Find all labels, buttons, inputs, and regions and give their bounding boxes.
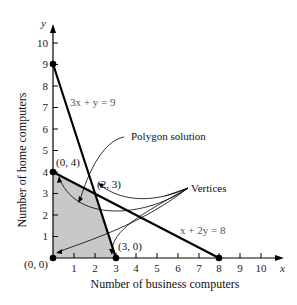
label-p04: (0, 4) xyxy=(56,156,80,169)
svg-text:3: 3 xyxy=(43,187,49,199)
svg-text:7: 7 xyxy=(43,101,49,113)
svg-text:3: 3 xyxy=(113,262,119,274)
x-var-label: x xyxy=(279,262,285,274)
x-axis-arrow xyxy=(275,255,284,261)
svg-text:2: 2 xyxy=(43,209,49,221)
svg-text:4: 4 xyxy=(43,166,49,178)
svg-text:6: 6 xyxy=(43,123,49,135)
svg-text:1: 1 xyxy=(71,262,77,274)
label-p30: (3, 0) xyxy=(118,240,142,253)
label-polygon-solution: Polygon solution xyxy=(131,130,206,142)
svg-text:9: 9 xyxy=(237,262,243,274)
svg-text:10: 10 xyxy=(37,37,49,49)
label-p23: (2, 3) xyxy=(97,178,121,191)
y-axis-label: Number of home computers xyxy=(15,92,29,227)
svg-text:5: 5 xyxy=(154,262,160,274)
x-tick-labels: 123 456 789 10 xyxy=(71,262,267,274)
svg-text:1: 1 xyxy=(43,230,49,242)
svg-text:8: 8 xyxy=(43,80,49,92)
svg-text:5: 5 xyxy=(43,144,49,156)
x-axis-label: Number of business computers xyxy=(91,277,240,291)
label-eq2: x + 2y = 8 xyxy=(180,224,226,236)
svg-text:9: 9 xyxy=(43,58,49,70)
label-eq1: 3x + y = 9 xyxy=(70,96,116,108)
svg-text:6: 6 xyxy=(175,262,181,274)
svg-text:4: 4 xyxy=(133,262,139,274)
svg-text:8: 8 xyxy=(216,262,222,274)
y-tick-labels: 123 456 789 10 xyxy=(37,37,49,242)
chart: 123 456 789 10 123 456 789 10 xyxy=(0,0,297,305)
label-p00: (0, 0) xyxy=(24,258,48,271)
svg-text:10: 10 xyxy=(256,262,268,274)
y-var-label: y xyxy=(40,17,46,29)
label-vertices: Vertices xyxy=(191,182,226,194)
y-axis-arrow xyxy=(50,24,56,33)
svg-text:2: 2 xyxy=(92,262,98,274)
svg-text:7: 7 xyxy=(196,262,202,274)
